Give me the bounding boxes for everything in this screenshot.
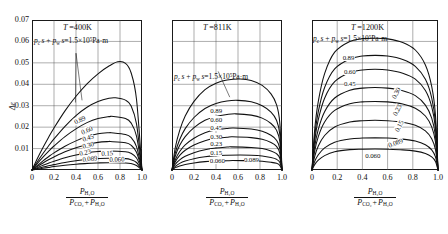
curve-label-panel-2-0_45: 0.45 bbox=[344, 80, 356, 87]
x-axis-label-panel-2: PH₂OPCO₂+PH₂O bbox=[330, 188, 420, 208]
pressure-note-panel-2: pc s + pw s=1.5×105Pa·m bbox=[313, 34, 387, 44]
xtick-panel-2-1: 0.2 bbox=[326, 173, 348, 182]
curve-label-panel-2-0_89: 0.89 bbox=[342, 54, 354, 61]
curve-0_15 bbox=[312, 120, 438, 170]
xtick-panel-2-0: 0 bbox=[301, 173, 323, 182]
xtick-panel-2-2: 0.4 bbox=[351, 173, 373, 182]
temperature-label-panel-2: T =1200K bbox=[351, 23, 384, 32]
curve-label-panel-2-0_060: 0.060 bbox=[365, 152, 381, 159]
curve-label-panel-2-0_60: 0.60 bbox=[344, 68, 356, 75]
curve-0_89 bbox=[312, 38, 438, 170]
curve-0_23 bbox=[312, 101, 438, 170]
y-axis-label: Δε bbox=[8, 102, 17, 110]
curves-panel-2 bbox=[312, 38, 438, 170]
xtick-panel-2-5: 1.0 bbox=[427, 173, 448, 182]
xtick-panel-2-3: 0.6 bbox=[377, 173, 399, 182]
figure-root: T =400Kpc s + pw s=1.5×105Pa·m00.20.40.6… bbox=[0, 0, 448, 234]
xtick-panel-2-4: 0.8 bbox=[402, 173, 424, 182]
